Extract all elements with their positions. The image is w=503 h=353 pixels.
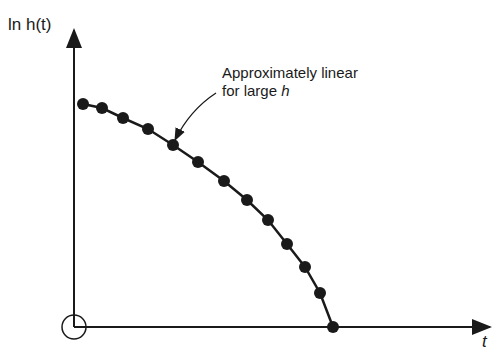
data-point bbox=[299, 261, 311, 273]
data-point bbox=[281, 238, 293, 250]
data-point bbox=[142, 123, 154, 135]
data-point bbox=[117, 112, 129, 124]
data-point bbox=[314, 287, 326, 299]
chart-canvas bbox=[0, 0, 503, 353]
annotation: Approximately linear for large h bbox=[222, 64, 358, 100]
data-point bbox=[218, 175, 230, 187]
data-point bbox=[327, 321, 339, 333]
annotation-line1: Approximately linear bbox=[222, 64, 358, 82]
data-point bbox=[167, 139, 179, 151]
data-point bbox=[77, 98, 89, 110]
data-points bbox=[77, 98, 339, 333]
data-curve bbox=[83, 104, 333, 327]
annotation-prefix: for large bbox=[222, 82, 281, 99]
data-point bbox=[241, 194, 253, 206]
annotation-arrow bbox=[175, 93, 216, 140]
annotation-variable: h bbox=[281, 82, 289, 99]
data-point bbox=[192, 156, 204, 168]
annotation-line2: for large h bbox=[222, 82, 358, 100]
x-axis-label: t bbox=[482, 332, 487, 352]
y-axis-label: ln h(t) bbox=[8, 15, 51, 35]
data-point bbox=[262, 214, 274, 226]
data-point bbox=[96, 102, 108, 114]
